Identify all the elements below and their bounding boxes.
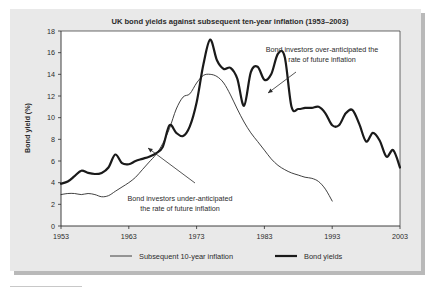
x-tick-group: 195319631973198319932003 (53, 226, 408, 241)
x-tick-label: 1973 (189, 232, 205, 241)
annotation-text: the rate of future inflation (140, 204, 220, 213)
x-tick-label: 1963 (121, 232, 137, 241)
y-tick-label: 16 (47, 48, 55, 57)
x-tick-label: 1993 (324, 232, 340, 241)
legend-label-1[interactable]: Bond yields (304, 252, 343, 261)
legend-label-0[interactable]: Subsequent 10-year inflation (139, 252, 233, 261)
chart-title: UK bond yields against subsequent ten-ye… (111, 17, 349, 26)
y-tick-label: 4 (51, 178, 55, 187)
y-tick-label: 10 (47, 113, 55, 122)
chart-canvas: 024681012141618 195319631973198319932003… (0, 0, 437, 293)
y-tick-label: 14 (47, 70, 55, 79)
annotation-text: Bond investors over-anticipated the (266, 45, 379, 54)
y-tick-label: 8 (51, 135, 55, 144)
annotation-text: Bond investors under-anticipated (127, 194, 232, 203)
y-tick-label: 2 (51, 200, 55, 209)
annotation-text: rate of future inflation (288, 55, 356, 64)
y-axis-title: Bond yield (%) (23, 102, 32, 153)
y-tick-label: 0 (51, 222, 55, 231)
y-tick-label: 12 (47, 92, 55, 101)
chart-legend: Subsequent 10-year inflationBond yields (110, 252, 343, 261)
y-tick-group: 024681012141618 (47, 27, 61, 231)
x-tick-label: 1953 (53, 232, 69, 241)
footer-rule (10, 286, 82, 287)
figure-root: 024681012141618 195319631973198319932003… (0, 0, 437, 293)
x-tick-label: 1983 (256, 232, 272, 241)
y-tick-label: 18 (47, 27, 55, 36)
y-tick-label: 6 (51, 157, 55, 166)
x-tick-label: 2003 (392, 232, 408, 241)
